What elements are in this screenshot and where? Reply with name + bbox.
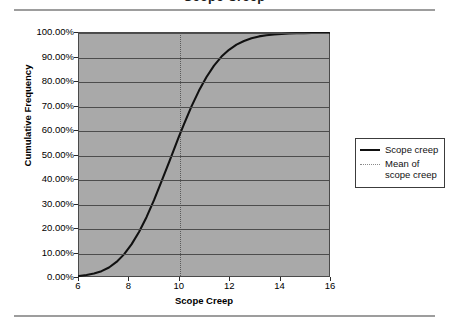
legend-label-line2: scope creep: [385, 169, 437, 180]
plot-inner: [79, 33, 329, 276]
legend-label-scope-creep: Scope creep: [385, 144, 438, 155]
x-tick-label: 12: [214, 280, 244, 291]
bottom-divider-rule: [14, 315, 435, 317]
y-tick-mark: [74, 228, 78, 229]
y-tick-label: 50.00%: [22, 150, 74, 160]
x-tick-label: 6: [63, 280, 93, 291]
y-tick-label: 20.00%: [22, 223, 74, 233]
x-tick-mark: [280, 277, 281, 281]
x-tick-mark: [179, 277, 180, 281]
y-tick-label: 40.00%: [22, 174, 74, 184]
gridline: [79, 107, 329, 108]
y-tick-mark: [74, 155, 78, 156]
x-tick-label: 14: [265, 280, 295, 291]
y-tick-label: 70.00%: [22, 101, 74, 111]
y-tick-label: 100.00%: [22, 27, 74, 37]
chart-legend[interactable]: Scope creep Mean ofscope creep: [355, 138, 445, 188]
y-tick-label: 30.00%: [22, 199, 74, 209]
scope-creep-curve: [79, 33, 329, 276]
x-tick-mark: [78, 277, 79, 281]
x-tick-mark: [128, 277, 129, 281]
legend-label-mean-of-scope-creep: Mean ofscope creep: [385, 158, 437, 180]
gridline: [79, 131, 329, 132]
gridline: [79, 82, 329, 83]
gridline: [79, 205, 329, 206]
y-tick-mark: [74, 253, 78, 254]
x-tick-label: 16: [315, 280, 345, 291]
page-title: Scope Creep: [0, 0, 449, 4]
x-tick-label: 8: [113, 280, 143, 291]
gridline: [79, 229, 329, 230]
top-divider-rule: [14, 9, 435, 11]
y-tick-mark: [74, 204, 78, 205]
x-tick-mark: [330, 277, 331, 281]
y-tick-label: 10.00%: [22, 248, 74, 258]
x-tick-mark: [229, 277, 230, 281]
solid-line-icon: [359, 144, 381, 156]
y-tick-mark: [74, 57, 78, 58]
gridline: [79, 156, 329, 157]
y-tick-mark: [74, 106, 78, 107]
y-tick-mark: [74, 81, 78, 82]
y-tick-mark: [74, 32, 78, 33]
legend-item-scope-creep[interactable]: Scope creep: [359, 144, 441, 156]
y-tick-mark: [74, 130, 78, 131]
y-tick-mark: [74, 179, 78, 180]
y-tick-label: 60.00%: [22, 125, 74, 135]
gridline: [79, 58, 329, 59]
gridline: [79, 180, 329, 181]
gridline: [79, 33, 329, 34]
x-tick-label: 10: [164, 280, 194, 291]
plot-area: [78, 32, 330, 277]
x-axis-tick-labels: 6810121416: [78, 280, 330, 294]
gridline: [79, 254, 329, 255]
x-axis-title: Scope Creep: [78, 295, 330, 306]
legend-label-line1: Mean of: [385, 158, 419, 169]
y-axis-tick-labels: 0.00%10.00%20.00%30.00%40.00%50.00%60.00…: [22, 32, 74, 277]
y-tick-label: 80.00%: [22, 76, 74, 86]
cumulative-frequency-chart: Cumulative Frequency 0.00%10.00%20.00%30…: [0, 14, 449, 314]
legend-item-mean-of-scope-creep[interactable]: Mean ofscope creep: [359, 158, 441, 180]
dotted-line-icon: [359, 158, 381, 170]
y-tick-label: 90.00%: [22, 52, 74, 62]
